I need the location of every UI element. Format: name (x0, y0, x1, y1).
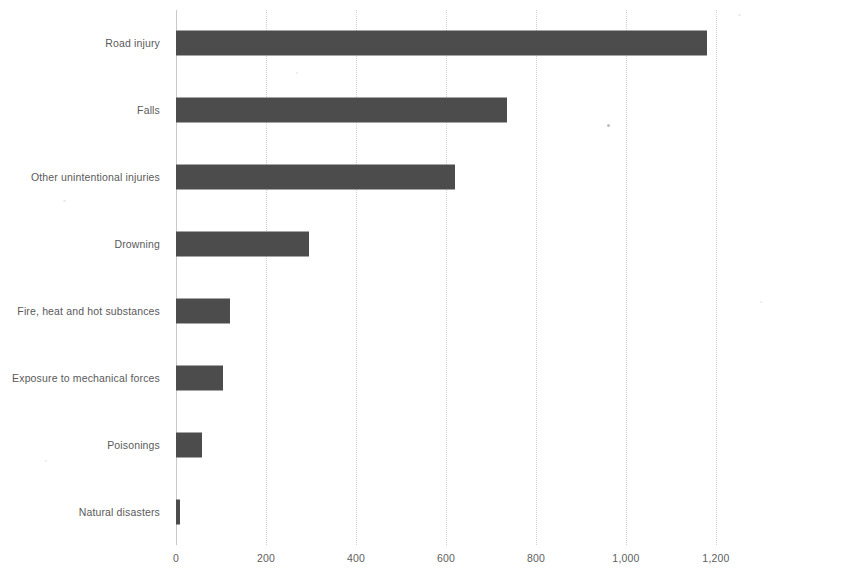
bars (176, 10, 716, 545)
bar-row (176, 77, 716, 144)
y-axis-label-3: Drowning (114, 211, 160, 278)
bar-3[interactable] (176, 232, 309, 257)
x-tick-label-1,000: 1,000 (612, 552, 639, 564)
x-tick-label-1,200: 1,200 (702, 552, 729, 564)
bar-row (176, 344, 716, 411)
bar-row (176, 211, 716, 278)
bar-row (176, 411, 716, 478)
gridline-1,200 (716, 10, 718, 545)
y-axis-label-2: Other unintentional injuries (31, 144, 160, 211)
y-axis-label-5: Exposure to mechanical forces (12, 344, 160, 411)
plot-area (176, 10, 716, 545)
bar-7[interactable] (176, 499, 180, 524)
x-tick-label-400: 400 (347, 552, 365, 564)
bar-row (176, 478, 716, 545)
y-axis-label-6: Poisonings (107, 411, 160, 478)
bar-4[interactable] (176, 298, 230, 323)
bar-0[interactable] (176, 31, 707, 56)
y-axis-label-0: Road injury (105, 10, 160, 77)
bar-1[interactable] (176, 98, 507, 123)
x-tick-label-0: 0 (173, 552, 179, 564)
bar-row (176, 10, 716, 77)
bar-2[interactable] (176, 165, 455, 190)
x-tick-label-200: 200 (257, 552, 275, 564)
x-tick-label-600: 600 (437, 552, 455, 564)
x-axis-tick-labels: 02004006008001,0001,200 (176, 552, 716, 572)
bar-chart: Road injury Falls Other unintentional in… (0, 0, 849, 582)
bar-row (176, 144, 716, 211)
y-axis-label-1: Falls (137, 77, 160, 144)
y-axis-label-4: Fire, heat and hot substances (17, 278, 160, 345)
bar-5[interactable] (176, 365, 223, 390)
scan-speckle (738, 14, 741, 16)
x-tick-label-800: 800 (527, 552, 545, 564)
bar-6[interactable] (176, 432, 202, 457)
scan-speckle (760, 301, 762, 303)
y-axis-label-7: Natural disasters (79, 478, 160, 545)
bar-row (176, 278, 716, 345)
y-axis-category-labels: Road injury Falls Other unintentional in… (0, 10, 168, 545)
